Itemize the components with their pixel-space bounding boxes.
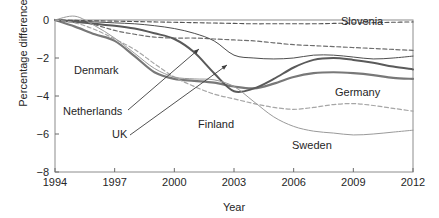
x-axis-title: Year: [223, 201, 246, 213]
y-tick-label: −8: [36, 166, 49, 178]
y-tick-label: −2: [36, 52, 49, 64]
y-tick-label: −6: [36, 128, 49, 140]
series-label-uk: UK: [112, 128, 128, 140]
chart-figure: Percentage difference SloveniaDenmarkNet…: [0, 0, 439, 218]
x-tick-label: 2006: [281, 176, 305, 188]
line-chart-svg: SloveniaDenmarkNetherlandsUKFinlandGerma…: [0, 0, 439, 218]
series-line-germany: [55, 20, 413, 88]
y-tick-label: −4: [36, 90, 49, 102]
series-line-uk: [55, 20, 413, 92]
x-tick-label: 2000: [162, 176, 186, 188]
series-label-sweden: Sweden: [292, 139, 332, 151]
series-label-slovenia: Slovenia: [341, 15, 384, 27]
x-tick-label: 1997: [102, 176, 126, 188]
series-label-netherlands: Netherlands: [63, 105, 123, 117]
series-label-denmark: Denmark: [74, 64, 119, 76]
arrowhead-uk: [222, 65, 227, 70]
series-label-germany: Germany: [335, 86, 381, 98]
x-tick-label: 2012: [401, 176, 425, 188]
x-tick-label: 2009: [341, 176, 365, 188]
y-tick-labels: 0−2−4−6−8: [36, 14, 49, 178]
series-label-finland: Finland: [198, 118, 234, 130]
x-tick-label: 2003: [222, 176, 246, 188]
y-tick-label: 0: [43, 14, 49, 26]
x-tick-labels: 1994199720002003200620092012: [43, 176, 425, 188]
